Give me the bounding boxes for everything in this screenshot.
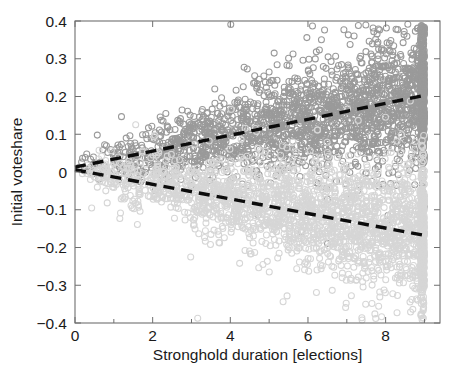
y-tick-label: 0	[58, 164, 67, 181]
x-tick-label: 6	[304, 327, 313, 344]
figure-container: 02468−0.4−0.3−0.2−0.100.10.20.30.4Strong…	[0, 0, 460, 374]
y-tick-label: −0.1	[36, 201, 67, 218]
y-tick-label: −0.4	[36, 315, 67, 332]
y-tick-label: −0.2	[36, 239, 67, 256]
y-tick-label: 0.2	[45, 88, 67, 105]
y-tick-label: 0.3	[45, 50, 67, 67]
x-tick-label: 2	[148, 327, 157, 344]
y-tick-label: 0.4	[45, 13, 67, 30]
y-tick-label: 0.1	[45, 126, 67, 143]
x-tick-label: 8	[381, 327, 390, 344]
y-axis-title: Initial voteshare	[8, 118, 25, 227]
x-tick-label: 4	[226, 327, 235, 344]
x-axis-title: Stronghold duration [elections]	[153, 346, 362, 363]
y-tick-label: −0.3	[36, 277, 67, 294]
x-tick-label: 0	[71, 327, 80, 344]
scatter-plot: 02468−0.4−0.3−0.2−0.100.10.20.30.4Strong…	[0, 0, 460, 374]
